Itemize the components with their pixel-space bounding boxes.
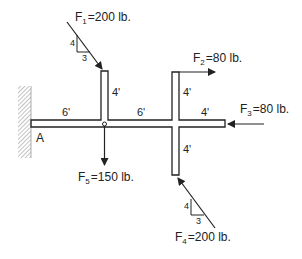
dimension-left-post: 4' [112, 86, 120, 98]
f4-slope-run: 3 [196, 216, 201, 226]
dimension-left-span: 6' [62, 106, 70, 118]
force-f2: F2=80 lb. [179, 51, 242, 72]
f5-label: F5=150 lb. [78, 170, 134, 186]
dimension-right-arm: 4' [201, 106, 209, 118]
pin-joint [103, 122, 107, 126]
force-f3: F3=80 lb. [228, 102, 289, 124]
f1-slope-run: 3 [82, 53, 87, 63]
wall-hatch [18, 86, 31, 158]
f4-slope-triangle [191, 199, 204, 215]
beam-outline [31, 71, 225, 175]
f2-label: F2=80 lb. [193, 51, 242, 67]
f4-slope-rise: 4 [184, 201, 189, 211]
force-f1: 4 3 F1=200 lb. [67, 10, 131, 69]
f1-slope-rise: 4 [70, 38, 75, 48]
support-label-a: A [36, 131, 44, 145]
fixed-wall-support [18, 86, 31, 158]
frame-structure [31, 71, 225, 175]
f3-label: F3=80 lb. [240, 102, 289, 118]
f1-label: F1=200 lb. [75, 10, 131, 26]
f4-label: F4=200 lb. [175, 230, 231, 246]
dimension-right-post-up: 4' [183, 86, 191, 98]
dimension-middle-span: 6' [137, 106, 145, 118]
frame-diagram: A 6' 4' 6' 4' 4' 4' 4 3 F1=200 lb. F2=80… [0, 0, 302, 259]
force-f5: F5=150 lb. [78, 126, 134, 186]
force-f4: 4 3 F4=200 lb. [175, 178, 231, 246]
dimension-right-post-down: 4' [183, 143, 191, 155]
